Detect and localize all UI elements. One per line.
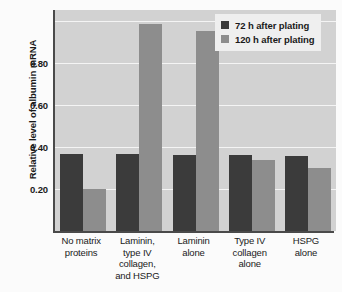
legend-label: 120 h after plating — [235, 34, 314, 45]
chart-legend: 72 h after plating120 h after plating — [215, 14, 321, 51]
bar[interactable] — [196, 31, 219, 231]
bar[interactable] — [60, 154, 83, 231]
bar[interactable] — [116, 154, 139, 231]
legend-entry[interactable]: 120 h after plating — [221, 32, 314, 46]
bar[interactable] — [83, 189, 106, 231]
x-axis-line — [53, 231, 334, 233]
x-tick-label-line: Laminin — [166, 235, 220, 247]
bar[interactable] — [252, 160, 275, 231]
x-tick-label-line: Laminin, — [110, 235, 164, 247]
bar[interactable] — [229, 155, 252, 231]
x-tick-label-line: collagen — [223, 247, 277, 259]
legend-label: 72 h after plating — [235, 20, 309, 31]
y-tick-label: 0.80 — [8, 57, 48, 68]
x-tick-label: Type IVcollagenalone — [222, 235, 278, 281]
x-tick-label: No matrixproteins — [53, 235, 109, 281]
y-tick-label: 0.40 — [8, 141, 48, 152]
legend-swatch-icon — [221, 35, 229, 43]
x-tick-label: HSPGalone — [278, 235, 334, 281]
bar[interactable] — [173, 155, 196, 231]
bar[interactable] — [139, 24, 162, 231]
y-tick-label: 0.20 — [8, 183, 48, 194]
x-tick-label-line: No matrix — [54, 235, 108, 247]
x-tick-label-line: Type IV — [223, 235, 277, 247]
bar-group — [55, 10, 111, 231]
x-tick-label-line: alone — [223, 258, 277, 270]
x-tick-label-line: type IV — [110, 247, 164, 259]
y-axis-tick-labels: 0.200.400.600.80 — [8, 10, 48, 231]
bar[interactable] — [308, 168, 331, 231]
x-tick-label-line: alone — [279, 247, 333, 259]
bar-group — [111, 10, 167, 231]
x-tick-label-line: alone — [166, 247, 220, 259]
x-tick-label: Lamininalone — [165, 235, 221, 281]
x-tick-label-line: proteins — [54, 247, 108, 259]
bar-chart-figure: Relative level of albumin mRNA 0.200.400… — [0, 0, 342, 292]
x-axis-tick-labels: No matrixproteinsLaminin,type IVcollagen… — [53, 235, 334, 281]
bar[interactable] — [285, 156, 308, 231]
x-tick-label-line: and HSPG — [110, 270, 164, 282]
x-tick-label-line: collagen, — [110, 258, 164, 270]
x-tick-label: Laminin,type IVcollagen,and HSPG — [109, 235, 165, 281]
legend-swatch-icon — [221, 21, 229, 29]
x-tick-label-line: HSPG — [279, 235, 333, 247]
y-tick-label: 0.60 — [8, 99, 48, 110]
legend-entry[interactable]: 72 h after plating — [221, 18, 314, 32]
